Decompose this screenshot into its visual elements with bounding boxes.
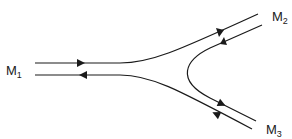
node-label-m3: M3: [266, 123, 282, 139]
y-junction-diagram: [0, 0, 292, 139]
arrow-left-icon: [79, 71, 87, 79]
node-label-m2: M2: [272, 10, 288, 26]
node-label-m1: M1: [6, 64, 22, 80]
arrow-right-icon: [77, 59, 85, 67]
arrow-down-right-icon: [217, 99, 228, 110]
